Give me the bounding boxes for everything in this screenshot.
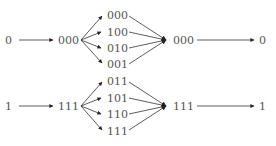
row-one: 1 111 011 101 110 111 111 1 (5, 75, 266, 138)
output-bit: 1 (259, 100, 266, 113)
row-zero: 0 000 000 100 010 001 000 0 (5, 9, 266, 71)
output-bit: 0 (259, 34, 266, 47)
fanout-arrow (81, 40, 101, 48)
branch-word: 001 (107, 58, 128, 71)
fanout-arrow (81, 40, 102, 63)
branch-word: 101 (107, 92, 128, 105)
branch-word: 111 (107, 125, 128, 138)
fanout-arrow (81, 16, 102, 40)
branch-word: 010 (107, 42, 128, 55)
encoded-codeword: 000 (58, 34, 79, 47)
fanout-arrow (81, 82, 102, 106)
input-bit: 1 (5, 100, 12, 113)
branch-word: 011 (107, 75, 128, 88)
input-bit: 0 (5, 34, 12, 47)
decoded-codeword: 111 (173, 100, 194, 113)
branch-word: 110 (107, 108, 128, 121)
branch-word: 000 (107, 9, 128, 22)
encoded-codeword: 111 (58, 100, 79, 113)
fanout-arrow (81, 106, 102, 130)
diagram-canvas: 0 000 000 100 010 001 000 0 1 111 011 10… (0, 0, 276, 146)
decoded-codeword: 000 (173, 34, 194, 47)
branch-word: 100 (107, 26, 128, 39)
